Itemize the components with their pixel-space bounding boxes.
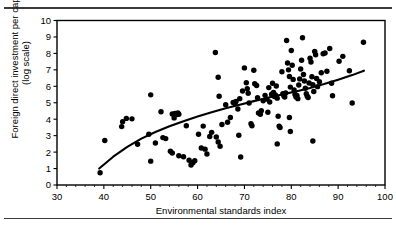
y-axis-tick-labels: 012345678910 [40,15,51,191]
data-point [265,110,270,115]
data-point [349,100,354,105]
data-point [322,50,327,55]
x-tick-label: 100 [377,191,393,202]
data-point [146,132,151,137]
data-point [236,133,241,138]
data-point [207,134,212,139]
figure-container: 012345678910 30405060708090100 Foreign d… [0,0,396,225]
y-tick-label: 4 [46,114,51,125]
data-point [153,140,158,145]
x-tick-label: 30 [52,191,63,202]
data-point [275,114,280,119]
data-point [238,154,243,159]
data-point [225,119,230,124]
data-point [170,150,175,155]
x-axis-tick-labels: 30405060708090100 [52,191,393,202]
data-point [310,82,315,87]
data-point [219,122,224,127]
data-point [176,153,181,158]
x-tick-label: 40 [99,191,110,202]
data-point [223,102,228,107]
data-point [266,85,271,90]
data-point [216,93,221,98]
data-point [287,115,292,120]
data-point [259,108,264,113]
data-point [213,50,218,55]
data-point [181,154,186,159]
data-point [305,95,310,100]
data-point [289,48,294,53]
chart-canvas: 012345678910 30405060708090100 [0,0,396,225]
data-point [254,83,259,88]
data-point [129,116,134,121]
data-point [284,38,289,43]
data-point [315,84,320,89]
data-point [296,82,301,87]
data-point [200,123,205,128]
data-point [327,46,332,51]
data-point [299,58,304,63]
data-point [102,138,107,143]
x-tick-label: 80 [286,191,297,202]
data-point [308,59,313,64]
y-tick-label: 7 [46,64,51,75]
data-point [148,158,153,163]
y-axis-label-line1: Foreign direct investment per capita [9,0,20,139]
data-point [255,95,260,100]
data-point [298,66,303,71]
y-axis-label-line2: (log scale) [20,41,31,85]
x-tick-label: 70 [239,191,250,202]
data-point [319,70,324,75]
x-tick-label: 90 [333,191,344,202]
data-point [330,93,335,98]
data-point [310,138,315,143]
data-point [246,100,251,105]
data-point [340,54,345,59]
data-point [196,132,201,137]
data-point [158,109,163,114]
data-point [214,134,219,139]
data-point [300,35,305,40]
data-point [336,59,341,64]
data-point [361,39,366,44]
x-tick-label: 50 [145,191,156,202]
data-point [283,90,288,95]
y-axis-label: Foreign direct investment per capita(log… [9,0,31,153]
data-point [297,76,302,81]
plot-frame [57,21,385,186]
data-point [324,68,329,73]
data-point [329,81,334,86]
data-point [290,63,295,68]
data-point [163,136,168,141]
data-point [275,141,280,146]
data-point [242,65,247,70]
data-point [290,77,295,82]
data-point [301,72,306,77]
data-point [215,75,220,80]
y-tick-label: 5 [46,97,51,108]
data-point [97,170,102,175]
data-point [274,83,279,88]
data-point [135,141,140,146]
data-point [228,115,233,120]
data-point [217,144,222,149]
data-point [309,74,314,79]
scatter-plot: 012345678910 30405060708090100 Foreign d… [0,0,396,225]
data-point [277,125,282,130]
y-tick-label: 0 [46,179,51,190]
data-point [244,80,249,85]
data-point [267,99,272,104]
y-tick-label: 10 [40,15,51,26]
data-point [204,151,209,156]
data-point [288,129,293,134]
data-point [237,96,242,101]
data-point [240,88,245,93]
y-tick-label: 3 [46,130,51,141]
data-point [245,90,250,95]
x-tick-label: 60 [192,191,203,202]
data-point [275,95,280,100]
data-point [249,123,254,128]
x-axis-label: Environmental standards index [57,205,385,216]
y-tick-label: 1 [46,163,51,174]
data-point [295,96,300,101]
